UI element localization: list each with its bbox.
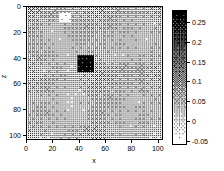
x-tick-label: 80	[127, 145, 135, 152]
heatmap-plot-area	[26, 6, 163, 140]
heatmap-image	[27, 7, 162, 139]
colorbar-canvas	[173, 11, 186, 144]
colorbar-tick-mark	[187, 62, 190, 63]
colorbar-tick-label: 0.2	[192, 38, 202, 45]
x-axis-label: x	[92, 157, 96, 164]
x-tick-mark	[105, 140, 106, 143]
z-tick-label: 40	[0, 54, 21, 61]
z-tick-mark	[23, 83, 26, 84]
colorbar-tick-mark	[187, 42, 190, 43]
z-tick-label: 20	[0, 28, 21, 35]
x-tick-label: 0	[24, 145, 28, 152]
colorbar-tick-mark	[187, 101, 190, 102]
x-tick-label: 100	[152, 145, 164, 152]
colorbar-tick-label: 0	[192, 118, 196, 125]
heatmap-figure: 020406080100 020406080100 x z 0.250.20.1…	[0, 0, 224, 171]
colorbar-tick-label: 0.05	[192, 98, 206, 105]
x-tick-mark	[131, 140, 132, 143]
z-tick-mark	[23, 6, 26, 7]
colorbar-tick-mark	[187, 121, 190, 122]
colorbar-tick-mark	[187, 141, 190, 142]
z-tick-mark	[23, 109, 26, 110]
z-tick-label: 0	[0, 3, 21, 10]
colorbar-gradient	[172, 10, 187, 145]
colorbar-tick-label: 0.25	[192, 18, 206, 25]
colorbar-tick-label: 0.15	[192, 58, 206, 65]
x-tick-mark	[26, 140, 27, 143]
colorbar-tick-label: -0.05	[192, 138, 208, 145]
z-tick-mark	[23, 135, 26, 136]
z-axis-label: z	[0, 75, 7, 79]
colorbar-tick-label: 0.1	[192, 78, 202, 85]
x-tick-mark	[79, 140, 80, 143]
x-tick-mark	[52, 140, 53, 143]
x-tick-mark	[158, 140, 159, 143]
z-tick-label: 60	[0, 80, 21, 87]
z-tick-label: 80	[0, 106, 21, 113]
z-tick-mark	[23, 58, 26, 59]
colorbar-tick-mark	[187, 22, 190, 23]
colorbar-tick-mark	[187, 81, 190, 82]
z-tick-label: 100	[0, 131, 21, 138]
z-tick-mark	[23, 32, 26, 33]
x-tick-label: 40	[75, 145, 83, 152]
x-tick-label: 60	[101, 145, 109, 152]
colorbar	[172, 10, 187, 145]
x-tick-label: 20	[48, 145, 56, 152]
